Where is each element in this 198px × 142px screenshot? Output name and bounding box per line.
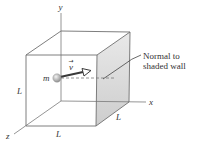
velocity-arrow <box>60 69 91 78</box>
y-axis-label: y <box>58 2 63 12</box>
edge-label-bottom: L <box>55 129 61 139</box>
x-axis-label: x <box>148 97 153 107</box>
velocity-vector-arrow-icon: → <box>69 57 74 64</box>
edge-label-left: L <box>16 86 22 96</box>
z-axis-label: z <box>5 131 10 141</box>
shaded-wall <box>96 32 130 126</box>
mass-label: m <box>43 73 50 83</box>
gas-molecule-box-diagram: y x z m v → L L L Normal to shaded wall <box>0 0 198 142</box>
annotation-line-2: shaded wall <box>143 61 186 71</box>
z-axis <box>14 101 61 134</box>
arrowhead-icon <box>82 69 91 77</box>
annotation-line-1: Normal to <box>143 51 180 61</box>
x-axis <box>61 101 146 102</box>
edge-label-depth: L <box>115 112 121 122</box>
molecule-ball <box>53 74 61 82</box>
